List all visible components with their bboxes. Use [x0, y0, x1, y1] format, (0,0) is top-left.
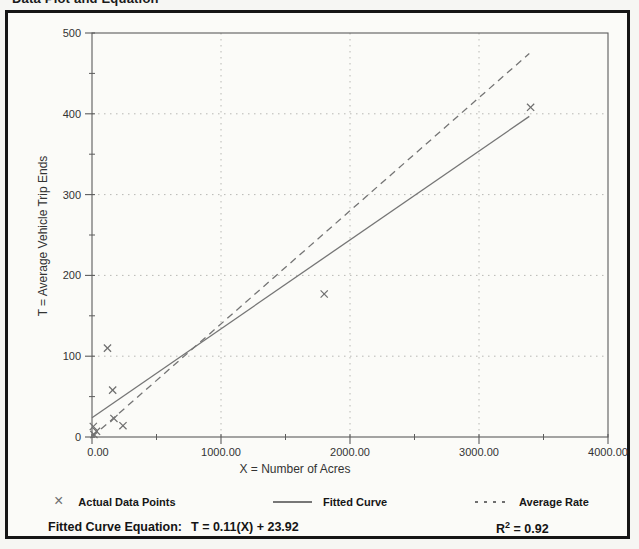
equation-value: T = 0.11(X) + 23.92	[191, 520, 299, 534]
y-tick-label: 200	[63, 269, 81, 281]
legend-item-fitted-curve: Fitted Curve	[273, 496, 387, 508]
legend-label-actual-data-points: Actual Data Points	[78, 496, 175, 508]
legend-label-fitted-curve: Fitted Curve	[323, 496, 387, 508]
y-tick-label: 400	[63, 108, 81, 120]
legend-item-actual-data-points: × Actual Data Points	[54, 496, 176, 508]
x-tick-label: 4000.00	[588, 446, 628, 458]
x-tick-label: 2000.00	[330, 446, 370, 458]
r-squared-base: R	[496, 522, 505, 536]
x-tick-label: 1000.00	[201, 446, 241, 458]
average-rate-line	[92, 54, 529, 437]
x-axis-label: X = Number of Acres	[239, 462, 350, 476]
chart-canvas: 01002003004005000.001000.002000.003000.0…	[0, 0, 639, 549]
equation-label: Fitted Curve Equation:	[48, 520, 182, 534]
solid-line-icon	[273, 501, 312, 503]
fitted-curve-equation: Fitted Curve Equation:T = 0.11(X) + 23.9…	[48, 520, 299, 534]
x-tick-label: 3000.00	[459, 446, 499, 458]
dashed-line-icon	[475, 501, 508, 503]
y-tick-label: 500	[63, 27, 81, 39]
y-axis-label: T = Average Vehicle Trip Ends	[36, 156, 50, 317]
fitted-curve-line	[92, 116, 529, 417]
x-marker-icon: ×	[54, 496, 63, 506]
legend-item-average-rate: Average Rate	[475, 496, 589, 508]
legend-label-average-rate: Average Rate	[519, 496, 589, 508]
r-squared-value: R2 = 0.92	[496, 520, 549, 536]
x-tick-label: 0.00	[87, 446, 108, 458]
r-squared-number: = 0.92	[510, 522, 549, 536]
y-tick-label: 0	[75, 431, 81, 443]
y-tick-label: 300	[63, 189, 81, 201]
y-tick-label: 100	[63, 350, 81, 362]
